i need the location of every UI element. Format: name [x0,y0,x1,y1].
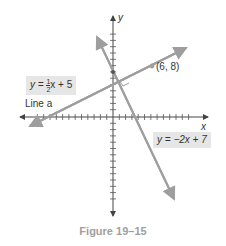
x-axis-label: x [201,121,206,132]
point-0-7 [111,70,115,74]
point-label: (6, 8) [156,61,179,72]
eq1-suffix: x + 5 [50,79,72,90]
coordinate-plane [0,0,226,246]
equation-line-a: y = 12x + 5 [26,76,76,95]
y-axis [110,16,116,216]
equation-line-2: y = −2x + 7 [153,132,211,148]
figure: y x (6, 8) Line a y = 12x + 5 y = −2x + … [0,0,226,246]
eq1-prefix: y = [30,79,46,90]
figure-caption: Figure 19–15 [0,225,226,237]
point-6-8 [150,64,155,69]
y-axis-label: y [118,12,123,23]
line-a-label: Line a [25,98,52,109]
